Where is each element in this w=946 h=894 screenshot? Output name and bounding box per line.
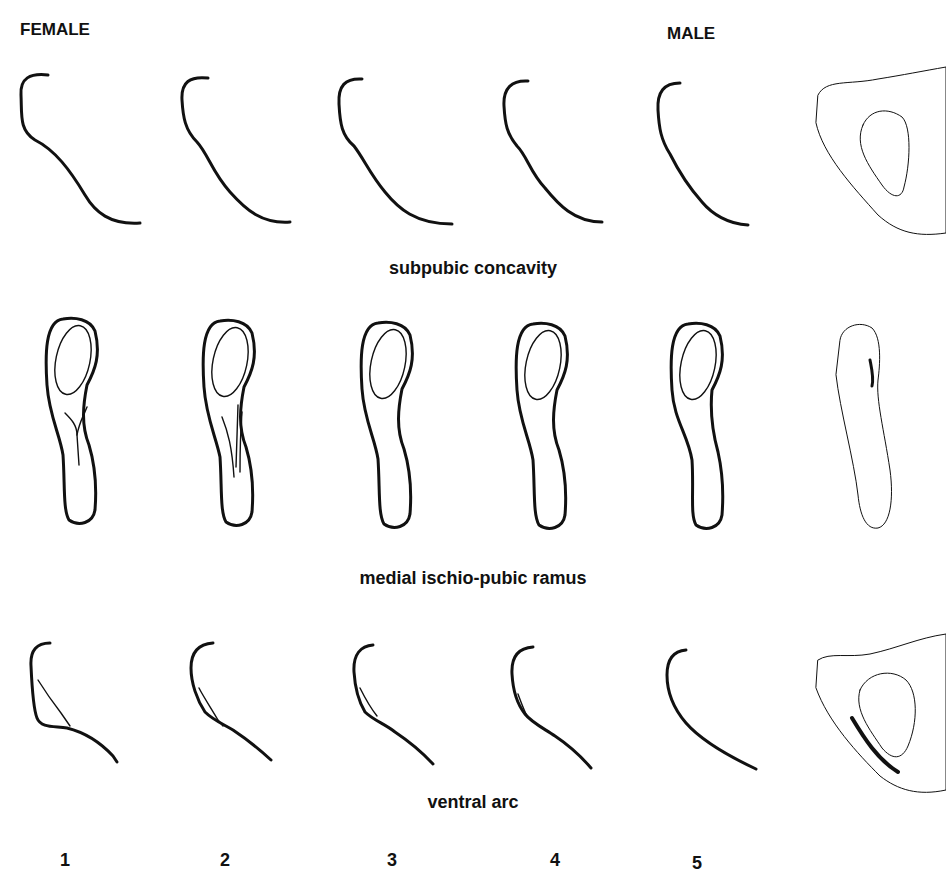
female-header: FEMALE	[20, 20, 90, 40]
ventral-arc-score-4-drawing	[503, 642, 603, 782]
male-header: MALE	[667, 24, 715, 44]
score-label-1: 1	[60, 850, 70, 871]
subpubic-concavity-3d-model	[808, 65, 946, 240]
medial-ischio-pubic-ramus-score-3-drawing	[350, 319, 430, 539]
score-label-2: 2	[220, 850, 230, 871]
medial-ischio-pubic-ramus-score-4-drawing	[505, 320, 585, 540]
score-label-3: 3	[387, 850, 397, 871]
subpubic-concavity-score-5-drawing	[650, 78, 790, 238]
subpubic-concavity-score-1-drawing	[10, 70, 150, 230]
subpubic-concavity-score-4-drawing	[490, 76, 630, 236]
ventral-arc-score-2-drawing	[183, 638, 283, 778]
subpubic-concavity-score-3-drawing	[330, 74, 470, 234]
medial-ischio-pubic-ramus-score-1-drawing	[35, 315, 115, 535]
ventral-arc-3d-model	[808, 630, 946, 800]
ventral-arc-score-3-drawing	[345, 640, 445, 780]
score-label-4: 4	[550, 850, 560, 871]
medial-ischio-pubic-ramus-score-5-drawing	[660, 320, 740, 540]
medial-ischio-pubic-ramus-3d-model	[830, 320, 900, 535]
ventral-arc-score-5-drawing	[660, 645, 770, 785]
score-label-5: 5	[692, 853, 702, 874]
row-label-medial-ischio-pubic-ramus: medial ischio-pubic ramus	[0, 568, 946, 589]
medial-ischio-pubic-ramus-score-2-drawing	[190, 317, 270, 537]
subpubic-concavity-score-2-drawing	[170, 72, 310, 232]
row-label-subpubic-concavity: subpubic concavity	[0, 258, 946, 279]
row-label-ventral-arc: ventral arc	[0, 792, 946, 813]
ventral-arc-score-1-drawing	[25, 638, 125, 778]
